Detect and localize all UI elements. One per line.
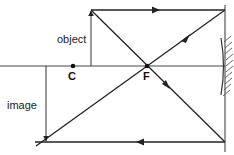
center-label: C <box>68 71 76 82</box>
right-arrow-icon <box>152 7 160 14</box>
ray-diagram <box>0 0 234 155</box>
down-left-arrow-icon <box>181 34 190 43</box>
image-label: image <box>7 100 37 111</box>
focus-label: F <box>143 71 150 82</box>
focal-point <box>145 64 150 69</box>
focal-incident-ray <box>91 10 225 142</box>
center-of-curvature-point <box>71 64 76 69</box>
left-arrow-icon <box>136 139 144 146</box>
object-label: object <box>57 34 86 45</box>
reflected-ray-through-focus <box>36 10 225 146</box>
